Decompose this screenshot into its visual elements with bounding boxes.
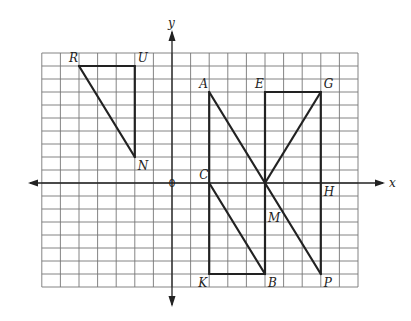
point-label-P: P: [323, 276, 333, 290]
point-label-C: C: [199, 168, 208, 182]
segment-CB: [209, 183, 265, 274]
x-axis-right-arrow-icon: [375, 180, 385, 187]
y-axis-label: y: [167, 16, 175, 30]
point-label-E: E: [254, 77, 264, 91]
coordinate-grid-diagram: x y 0 RUNAEGCHMKBP: [0, 0, 411, 321]
point-label-U: U: [138, 51, 149, 65]
axes: x y 0: [28, 16, 396, 307]
point-labels: RUNAEGCHMKBP: [68, 51, 335, 290]
segment-GX: [265, 92, 321, 183]
point-label-R: R: [68, 51, 78, 65]
x-axis-label: x: [389, 176, 396, 190]
point-label-B: B: [267, 276, 277, 290]
point-label-G: G: [324, 77, 334, 91]
point-label-N: N: [137, 159, 149, 173]
point-label-M: M: [267, 211, 281, 225]
y-axis-up-arrow-icon: [169, 30, 176, 41]
origin-label: 0: [169, 177, 176, 190]
point-label-K: K: [197, 276, 208, 290]
point-label-A: A: [198, 77, 208, 91]
x-axis-left-arrow-icon: [28, 180, 38, 187]
point-label-H: H: [323, 185, 335, 199]
y-axis-down-arrow-icon: [169, 296, 176, 307]
segment-RN: [79, 66, 135, 157]
